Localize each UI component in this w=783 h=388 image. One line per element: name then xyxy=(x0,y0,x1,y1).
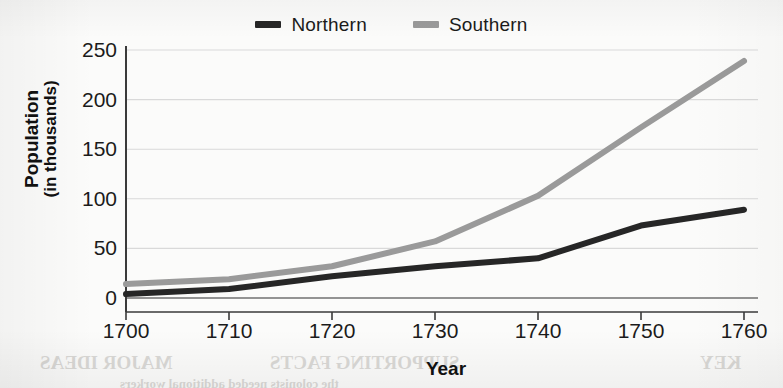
legend-swatch-southern xyxy=(413,21,439,28)
legend-item-southern[interactable]: Southern xyxy=(413,15,528,34)
x-tick-label: 1750 xyxy=(601,320,681,341)
y-tick-label: 50 xyxy=(57,237,117,258)
y-tick-label: 200 xyxy=(57,89,117,110)
y-tick-label: 100 xyxy=(57,188,117,209)
x-tick-label: 1730 xyxy=(395,320,475,341)
x-tick-label: 1760 xyxy=(704,320,783,341)
y-tick-label: 150 xyxy=(57,138,117,159)
legend-item-northern[interactable]: Northern xyxy=(255,15,367,34)
x-axis-title: Year xyxy=(126,358,766,380)
axis-lines xyxy=(126,46,758,312)
legend-label-southern: Southern xyxy=(449,15,528,34)
x-tick-label: 1740 xyxy=(498,320,578,341)
x-tick-label: 1710 xyxy=(189,320,269,341)
x-axis-tick-labels: 1700171017201730174017501760 xyxy=(0,320,783,350)
legend-swatch-northern xyxy=(255,21,281,28)
y-axis-title-line1: Population xyxy=(22,44,42,234)
series-line-southern xyxy=(126,61,744,284)
y-tick-label: 0 xyxy=(57,287,117,308)
chart-legend: Northern Southern xyxy=(0,10,783,38)
gridlines xyxy=(126,50,758,298)
y-tick-label: 250 xyxy=(57,39,117,60)
chart-page: MAJOR IDEASSUPPORTING FACTSKEYthe coloni… xyxy=(0,0,783,388)
x-tick-label: 1700 xyxy=(86,320,166,341)
legend-label-northern: Northern xyxy=(291,15,367,34)
x-tick-label: 1720 xyxy=(292,320,372,341)
series-lines xyxy=(126,61,744,294)
